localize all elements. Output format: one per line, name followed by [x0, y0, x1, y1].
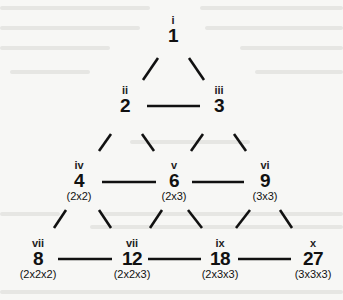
node-value: 8 [20, 249, 57, 268]
node-12: vii 12 (2x2x3) [114, 237, 151, 280]
edge-1-2 [143, 58, 158, 80]
node-value: 4 [66, 171, 91, 190]
node-value: 2 [120, 96, 130, 115]
node-9: vi 9 (3x3) [252, 159, 277, 202]
edge-2-6 [142, 134, 154, 151]
node-27: x 27 (3x3x3) [295, 237, 332, 280]
node-factors: (2x3x3) [202, 268, 239, 280]
node-18: ix 18 (2x3x3) [202, 237, 239, 280]
node-value: 6 [161, 171, 186, 190]
node-value: 27 [295, 249, 332, 268]
node-value: 9 [252, 171, 277, 190]
edge-4-8 [54, 210, 66, 228]
node-4: iv 4 (2x2) [66, 159, 91, 202]
edge-6-18 [188, 210, 202, 228]
node-value: 18 [202, 249, 239, 268]
node-8: vii 8 (2x2x2) [20, 237, 57, 280]
edge-6-12 [150, 210, 162, 228]
node-factors: (3x3x3) [295, 268, 332, 280]
node-1: i 1 [168, 14, 178, 45]
edge-1-3 [189, 58, 204, 80]
node-factors: (2x3) [161, 190, 186, 202]
edge-4-12 [99, 210, 111, 228]
node-value: 3 [214, 96, 224, 115]
node-value: 1 [168, 26, 178, 45]
edge-9-27 [280, 210, 292, 228]
edge-3-9 [234, 134, 246, 151]
node-factors: (2x2) [66, 190, 91, 202]
edge-2-4 [99, 134, 111, 151]
node-factors: (2x2x2) [20, 268, 57, 280]
edge-9-18 [236, 210, 250, 228]
node-factors: (2x2x3) [114, 268, 151, 280]
node-factors: (3x3) [252, 190, 277, 202]
node-6: v 6 (2x3) [161, 159, 186, 202]
node-2: ii 2 [120, 84, 130, 115]
edge-3-6 [191, 134, 203, 151]
node-value: 12 [114, 249, 151, 268]
node-3: iii 3 [214, 84, 224, 115]
